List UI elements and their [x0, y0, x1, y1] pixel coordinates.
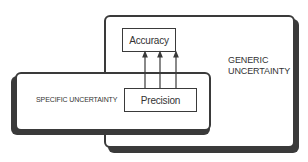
arrows-precision-to-accuracy [0, 0, 308, 162]
arrowhead-icon [158, 52, 162, 57]
arrowhead-icon [143, 52, 147, 57]
arrowhead-icon [174, 52, 178, 57]
